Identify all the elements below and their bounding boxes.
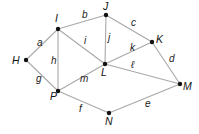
edge-I-L <box>58 29 105 64</box>
node-label: M <box>183 80 192 92</box>
graph-diagram: abcdefghijkℓm HIJKLMNP <box>0 0 199 134</box>
edge-label: e <box>145 98 151 109</box>
edge-label: ℓ <box>130 59 135 70</box>
nodes-layer <box>24 13 182 115</box>
edge-label: f <box>79 103 83 114</box>
edge-label: m <box>80 73 88 84</box>
edge-label: g <box>36 73 42 84</box>
edge-L-K <box>105 42 152 64</box>
edge-J-L <box>105 15 106 64</box>
node-M <box>178 82 182 86</box>
node-label: J <box>102 0 109 12</box>
node-label: P <box>50 90 57 102</box>
node-labels-layer: HIJKLMNP <box>12 0 192 127</box>
edge-label: k <box>130 42 136 53</box>
node-label: I <box>55 12 58 24</box>
node-J <box>104 13 108 17</box>
node-K <box>150 40 154 44</box>
node-label: N <box>105 115 113 127</box>
node-H <box>24 58 28 62</box>
node-label: K <box>156 33 164 45</box>
edge-J-K <box>106 15 152 42</box>
edge-label: d <box>169 53 175 64</box>
edge-label: i <box>84 35 87 46</box>
node-label: L <box>101 66 107 78</box>
edge-P-N <box>58 91 109 113</box>
edge-label: a <box>37 37 43 48</box>
edge-label: j <box>106 32 111 43</box>
edge-label: b <box>82 9 88 20</box>
node-label: H <box>12 54 20 66</box>
edge-label: c <box>131 17 136 28</box>
node-I <box>56 27 60 31</box>
edge-label: h <box>51 55 57 66</box>
